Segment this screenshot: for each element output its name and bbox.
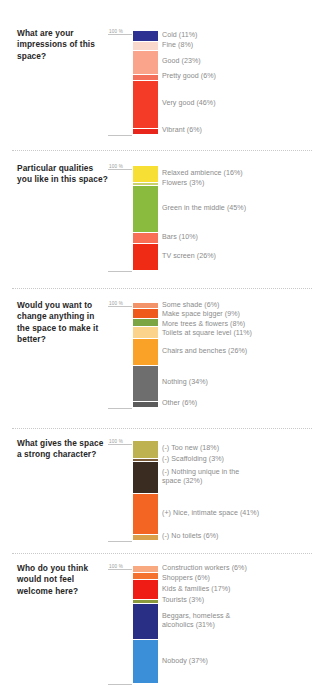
segment-label: Bars (10%) [162, 233, 320, 242]
bar-segment [133, 535, 158, 541]
stacked-bar [133, 441, 158, 541]
axis-max-label: 100 % [109, 164, 123, 169]
bar-segment [133, 339, 158, 366]
segment-label: Tourists (3%) [162, 596, 320, 605]
segment-label: Other (6%) [162, 399, 320, 408]
axis-tick-bottom [108, 271, 132, 272]
question-text: Particular qualities you like in this sp… [17, 163, 109, 186]
bar-segment [133, 166, 158, 183]
axis-max-label: 100 % [109, 29, 123, 34]
infographic-page: What are your impressions of this space?… [0, 0, 322, 698]
bar-segment [133, 640, 158, 684]
section-divider [12, 428, 312, 429]
stacked-bar [133, 303, 158, 408]
axis-tick-bottom [108, 541, 132, 542]
segment-label: Good (23%) [162, 57, 320, 66]
segment-label: Make space bigger (9%) [162, 310, 320, 319]
section-divider [12, 553, 312, 554]
stacked-bar [133, 566, 158, 684]
bar-segment [133, 31, 158, 42]
bar-segment [133, 580, 158, 600]
bar-segment [133, 233, 158, 244]
bar-segment [133, 81, 158, 129]
segment-label: TV screen (26%) [162, 252, 320, 261]
axis-tick-top [108, 169, 132, 170]
bar-segment [133, 309, 158, 318]
axis-tick-top [108, 569, 132, 570]
axis-tick-top [108, 444, 132, 445]
segment-label: Cold (11%) [162, 31, 320, 40]
bar-segment [133, 186, 158, 233]
axis-tick-top [108, 306, 132, 307]
bar-segment [133, 327, 158, 339]
bar-segment [133, 566, 158, 573]
segment-label: More trees & flowers (8%) [162, 320, 320, 329]
segment-label: (-) Too new (18%) [162, 444, 320, 453]
segment-label: Beggars, homeless & alcoholics (31%) [162, 612, 320, 630]
axis-tick-bottom [108, 408, 132, 409]
segment-label: (-) No toilets (6%) [162, 532, 320, 541]
question-text: What gives the space a strong character? [17, 438, 109, 461]
section-divider [12, 288, 312, 289]
bar-segment [133, 129, 158, 135]
segment-label: Relaxed ambience (16%) [162, 169, 320, 178]
segment-label: Pretty good (6%) [162, 72, 320, 81]
segment-label: Some shade (6%) [162, 301, 320, 310]
axis-tick-top [108, 34, 132, 35]
bar-segment [133, 244, 158, 271]
segment-label: Construction workers (6%) [162, 564, 320, 573]
segment-label: (-) Scaffolding (3%) [162, 455, 320, 464]
bar-segment [133, 42, 158, 50]
axis-max-label: 100 % [109, 439, 123, 444]
segment-label: Kids & families (17%) [162, 585, 320, 594]
bar-segment [133, 573, 158, 580]
question-text: Would you want to change anything in the… [17, 300, 109, 345]
axis-max-label: 100 % [109, 564, 123, 569]
axis-tick-bottom [108, 135, 132, 136]
stacked-bar [133, 31, 158, 135]
segment-label: Nothing (34%) [162, 378, 320, 387]
question-text: Who do you think would not feel welcome … [17, 563, 109, 597]
segment-label: Toilets at square level (11%) [162, 329, 320, 338]
segment-label: Fine (8%) [162, 41, 320, 50]
segment-label: Green in the middle (45%) [162, 204, 320, 213]
segment-label: Very good (46%) [162, 99, 320, 108]
bar-segment [133, 366, 158, 402]
axis-tick-bottom [108, 684, 132, 685]
segment-label: Chairs and benches (26%) [162, 347, 320, 356]
bar-segment [133, 462, 158, 494]
bar-segment [133, 604, 158, 641]
bar-segment [133, 51, 158, 75]
segment-label: (+) Nice, intimate space (41%) [162, 509, 320, 518]
segment-label: (-) Nothing unique in the space (32%) [162, 468, 320, 486]
segment-label: Shoppers (6%) [162, 574, 320, 583]
bar-segment [133, 402, 158, 408]
bar-segment [133, 494, 158, 535]
segment-label: Nobody (37%) [162, 657, 320, 666]
axis-max-label: 100 % [109, 301, 123, 306]
stacked-bar [133, 166, 158, 271]
bar-segment [133, 319, 158, 327]
segment-label: Flowers (3%) [162, 179, 320, 188]
question-text: What are your impressions of this space? [17, 28, 109, 62]
segment-label: Vibrant (6%) [162, 126, 320, 135]
section-divider [12, 150, 312, 151]
bar-segment [133, 441, 158, 459]
